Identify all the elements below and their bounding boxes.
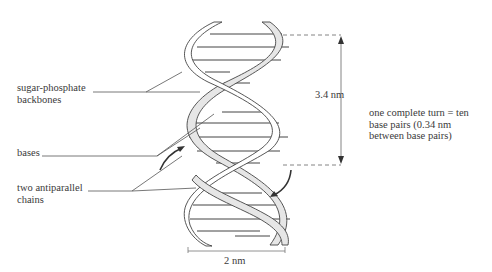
- turn-note: one complete turn = ten base pairs (0.34…: [369, 108, 469, 142]
- label-bases: bases: [17, 148, 40, 159]
- width-label: 2 nm: [224, 256, 245, 267]
- label-sugar-phosphate: sugar-phosphate backbones: [17, 83, 86, 105]
- width-dimension: [188, 247, 285, 253]
- pitch-arrow-up: [338, 36, 344, 44]
- pitch-label: 3.4 nm: [315, 90, 344, 101]
- label-antiparallel-chains: two antiparallel chains: [17, 183, 83, 205]
- strand-back-lower: [192, 175, 288, 245]
- strand-front: [184, 22, 280, 246]
- pitch-arrow-down: [338, 156, 344, 164]
